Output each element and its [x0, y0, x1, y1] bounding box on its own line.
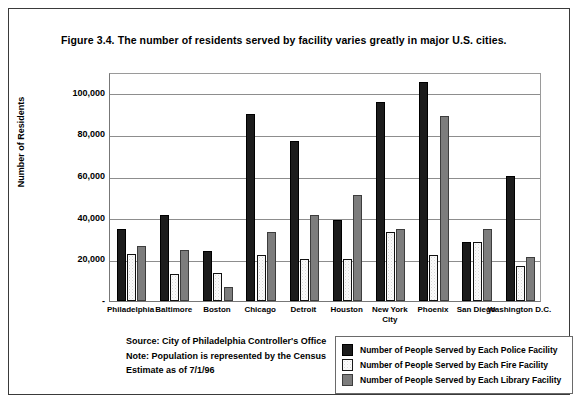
bar-fire	[343, 259, 352, 301]
bar-library	[137, 246, 146, 301]
legend-item-police[interactable]: Number of People Served by Each Police F…	[342, 342, 566, 357]
note-line-continued: Estimate as of 7/1/96	[126, 363, 326, 378]
bar-fire	[473, 242, 482, 301]
bar-fire	[213, 273, 222, 301]
bar-police	[290, 141, 299, 301]
bar-group	[240, 74, 283, 301]
x-tick-label-line: Washington D.C.	[486, 305, 553, 315]
bar-fire	[300, 259, 309, 301]
bar-group	[499, 74, 542, 301]
legend-label: Number of People Served by Each Police F…	[360, 345, 557, 355]
y-tick-label: 100,000	[49, 89, 105, 98]
bar-library	[353, 195, 362, 301]
x-tick-label: Washington D.C.	[486, 305, 553, 315]
plot-area	[109, 73, 541, 302]
bar-police	[506, 176, 515, 301]
y-axis-title: Number of Residents	[16, 72, 26, 212]
bar-library	[267, 232, 276, 301]
bar-library	[440, 116, 449, 301]
legend-label: Number of People Served by Each Fire Fac…	[360, 360, 548, 370]
bar-police	[117, 229, 126, 301]
source-notes: Source: City of Philadelphia Controller'…	[126, 334, 326, 378]
bar-police	[333, 220, 342, 301]
bar-library	[483, 229, 492, 301]
legend-item-fire[interactable]: Number of People Served by Each Fire Fac…	[342, 357, 566, 372]
bar-group	[412, 74, 455, 301]
bar-police	[203, 251, 212, 301]
y-tick-label: 20,000	[49, 255, 105, 264]
legend-item-library[interactable]: Number of People Served by Each Library …	[342, 372, 566, 387]
legend-label: Number of People Served by Each Library …	[360, 375, 561, 385]
y-tick-label: 60,000	[49, 172, 105, 181]
bar-group	[153, 74, 196, 301]
legend-swatch-fire-icon	[342, 359, 353, 371]
legend-swatch-library-icon	[342, 374, 353, 386]
bar-fire	[257, 255, 266, 301]
y-axis-tick-labels: -20,00040,00060,00080,000100,000	[45, 73, 105, 302]
bar-police	[462, 242, 471, 301]
bar-police	[419, 82, 428, 301]
bar-fire	[386, 232, 395, 301]
bar-fire	[516, 266, 525, 301]
x-tick-label-line: City	[356, 315, 423, 325]
x-axis-tick-labels: PhiladelphiaBaltimoreBostonChicagoDetroi…	[109, 305, 541, 331]
bar-library	[526, 257, 535, 301]
bar-fire	[429, 255, 438, 301]
bar-group	[283, 74, 326, 301]
bar-library	[310, 215, 319, 301]
chart-legend: Number of People Served by Each Police F…	[335, 336, 573, 394]
bar-police	[160, 215, 169, 301]
legend-swatch-police-icon	[342, 344, 353, 356]
figure-title: Figure 3.4. The number of residents serv…	[61, 34, 561, 46]
y-tick-label: 40,000	[49, 214, 105, 223]
bar-library	[224, 287, 233, 301]
bar-library	[180, 250, 189, 301]
note-line: Note: Population is represented by the C…	[126, 349, 326, 364]
bar-police	[246, 114, 255, 301]
bar-fire	[127, 254, 136, 301]
bar-group	[369, 74, 412, 301]
bar-fire	[170, 274, 179, 301]
source-line: Source: City of Philadelphia Controller'…	[126, 334, 326, 349]
bar-group	[196, 74, 239, 301]
figure-frame: Figure 3.4. The number of residents serv…	[8, 8, 570, 395]
bar-library	[396, 229, 405, 301]
bar-group	[110, 74, 153, 301]
bar-group	[456, 74, 499, 301]
y-tick-label: 80,000	[49, 130, 105, 139]
bar-police	[376, 102, 385, 301]
bar-group	[326, 74, 369, 301]
